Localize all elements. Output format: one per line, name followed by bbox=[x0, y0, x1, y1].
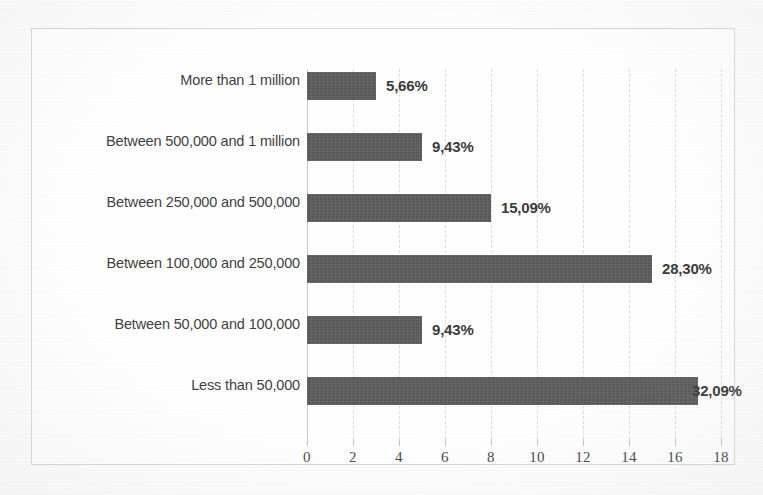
bar-between-500000-and-1m bbox=[307, 133, 422, 161]
category-label: Between 500,000 and 1 million bbox=[60, 133, 300, 149]
xtick-8 bbox=[491, 439, 492, 446]
xtick-label: 0 bbox=[287, 449, 327, 466]
xtick-4 bbox=[399, 439, 400, 446]
chart-page: More than 1 million Between 500,000 and … bbox=[0, 0, 763, 495]
xtick-label: 8 bbox=[471, 449, 511, 466]
xtick-2 bbox=[353, 439, 354, 446]
xtick-label: 10 bbox=[517, 449, 557, 466]
bar-value-label: 32,09% bbox=[692, 382, 742, 399]
xtick-0 bbox=[307, 439, 308, 446]
bar-less-than-50000 bbox=[307, 377, 698, 405]
xtick-label: 18 bbox=[701, 449, 741, 466]
category-label: Less than 50,000 bbox=[60, 377, 300, 393]
xtick-10 bbox=[537, 439, 538, 446]
bar-value-label: 5,66% bbox=[386, 77, 428, 94]
xtick-label: 6 bbox=[425, 449, 465, 466]
bar-between-100000-and-250000 bbox=[307, 255, 652, 283]
xtick-14 bbox=[629, 439, 630, 446]
xtick-6 bbox=[445, 439, 446, 446]
bar-between-50000-and-100000 bbox=[307, 316, 422, 344]
bar-value-label: 9,43% bbox=[432, 321, 474, 338]
chart-frame: More than 1 million Between 500,000 and … bbox=[31, 28, 735, 465]
bar-value-label: 28,30% bbox=[662, 260, 712, 277]
xtick-label: 16 bbox=[655, 449, 695, 466]
xtick-12 bbox=[583, 439, 584, 446]
category-axis: More than 1 million Between 500,000 and … bbox=[52, 69, 300, 439]
xtick-label: 12 bbox=[563, 449, 603, 466]
plot-area: 5,66% 9,43% 15,09% 28,30% 9,43% 32,09% 0… bbox=[307, 69, 721, 439]
xtick-label: 14 bbox=[609, 449, 649, 466]
category-label: Between 50,000 and 100,000 bbox=[60, 316, 300, 332]
bar-more-than-1-million bbox=[307, 72, 376, 100]
category-label: Between 250,000 and 500,000 bbox=[60, 194, 300, 210]
bar-value-label: 15,09% bbox=[501, 199, 551, 216]
bar-between-250000-and-500000 bbox=[307, 194, 491, 222]
category-label: More than 1 million bbox=[60, 72, 300, 88]
bar-value-label: 9,43% bbox=[432, 138, 474, 155]
xtick-18 bbox=[721, 439, 722, 446]
category-label: Between 100,000 and 250,000 bbox=[60, 255, 300, 271]
xtick-16 bbox=[675, 439, 676, 446]
xtick-label: 4 bbox=[379, 449, 419, 466]
xtick-label: 2 bbox=[333, 449, 373, 466]
